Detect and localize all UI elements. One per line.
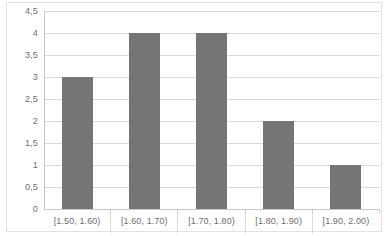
bar[interactable] [129,33,159,209]
x-axis-tick-label: [1.80, 1.90) [255,216,302,226]
x-axis-category: [1.80, 1.90) [246,209,313,233]
x-axis-tick-label: [1.70, 1.80) [188,216,235,226]
bar[interactable] [330,165,360,209]
bar[interactable] [263,121,293,209]
y-axis-tick-label: 4,5 [25,6,38,16]
plot-area [44,11,379,209]
bar-cell [111,11,178,209]
bar-series [44,11,379,209]
x-axis-category: [1.70, 1.80) [178,209,245,233]
y-axis-tick-label: 1 [33,160,38,170]
bar-cell [178,11,245,209]
y-axis-tick-label: 2 [33,116,38,126]
y-axis-tick-label: 1,5 [25,138,38,148]
y-axis-tick-labels: 00,511,522,533,544,5 [7,11,44,209]
y-axis-tick-label: 3,5 [25,50,38,60]
chart-frame: 00,511,522,533,544,5 [1.50, 1.60)[1.60, … [6,2,382,232]
x-axis-tick-labels: [1.50, 1.60)[1.60, 1.70)[1.70, 1.80)[1.8… [44,209,379,233]
bar-cell [312,11,379,209]
x-axis-category: [1.60, 1.70) [111,209,178,233]
y-axis-tick-label: 0,5 [25,182,38,192]
x-axis-tick-label: [1.60, 1.70) [121,216,168,226]
y-axis-tick-label: 3 [33,72,38,82]
bar[interactable] [62,77,92,209]
y-axis-tick-label: 2,5 [25,94,38,104]
bar[interactable] [196,33,226,209]
x-axis-category: [1.90, 2.00) [313,209,379,233]
y-axis-tick-label: 4 [33,28,38,38]
bar-cell [44,11,111,209]
y-axis-line [44,11,45,209]
x-axis-tick-label: [1.90, 2.00) [323,216,370,226]
x-axis-tick-label: [1.50, 1.60) [54,216,101,226]
x-axis-tickmark [379,209,380,213]
bar-cell [245,11,312,209]
y-axis-tick-label: 0 [33,204,38,214]
x-axis-category: [1.50, 1.60) [44,209,111,233]
